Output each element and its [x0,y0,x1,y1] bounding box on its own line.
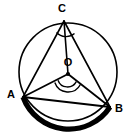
geometry-diagram-container: C O A B [0,0,130,133]
point-label-A: A [7,88,15,100]
center-point-dot-O [66,72,70,76]
geometry-canvas: C O A B [0,0,130,133]
point-label-B: B [115,102,123,114]
point-label-C: C [58,2,66,14]
point-label-O: O [64,56,73,68]
